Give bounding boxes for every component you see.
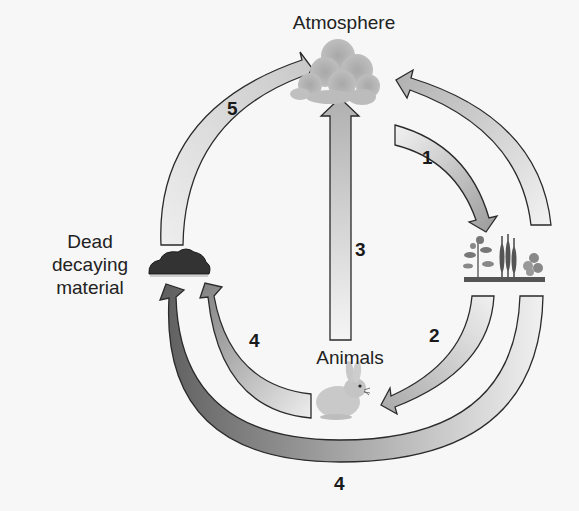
dead-material-label-line-2: decaying [40, 253, 140, 276]
arrow-4a-label: 4 [249, 331, 260, 351]
arrow-3-label: 3 [355, 240, 366, 260]
dead-material-label: Dead decaying material [40, 230, 140, 299]
arrow-5-label: 5 [227, 99, 238, 119]
rabbit-icon [316, 361, 370, 420]
carbon-cycle-diagram: Atmosphere Dead decaying material Animal… [0, 0, 579, 511]
arrow-2-label: 2 [429, 326, 440, 346]
dead-material-label-line-1: Dead [40, 230, 140, 253]
plants-icon [463, 234, 545, 282]
arrow-4b-label: 4 [334, 474, 345, 494]
atmosphere-label: Atmosphere [284, 12, 404, 34]
soil-mound-icon [149, 249, 210, 276]
animals-label: Animals [305, 347, 395, 369]
arrow-1-label: 1 [422, 148, 433, 168]
arrow-3-animals-to-atmosphere [321, 98, 359, 340]
dead-material-label-line-3: material [40, 276, 140, 299]
arrow-2-plants-to-animals [381, 296, 494, 414]
arrow-5-dead-to-atmosphere [161, 52, 312, 245]
arrow-1-atmosphere-to-plants [395, 125, 497, 232]
